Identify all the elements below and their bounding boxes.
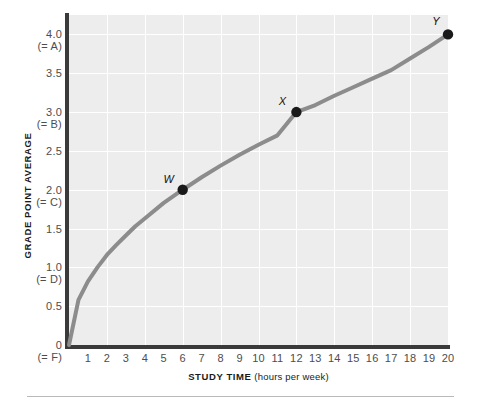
y-axis-title: GRADE POINT AVERAGE	[22, 106, 33, 286]
y-tick-value: 3.5	[4, 67, 62, 79]
point-label-x: X	[272, 95, 292, 107]
x-axis-title-units: (hours per week)	[254, 371, 328, 382]
y-tick-value: 1.0	[4, 261, 62, 273]
figure-bottom-rule	[27, 396, 454, 397]
y-tick-value: 2.5	[4, 145, 62, 157]
x-axis-title: STUDY TIME (hours per week)	[69, 371, 448, 382]
data-curve-layer	[0, 0, 480, 407]
y-tick-4-0: 4.0(= A)	[4, 28, 62, 52]
y-tick-0: 0(= F)	[4, 339, 62, 363]
data-point-w[interactable]	[178, 185, 188, 195]
y-tick-3-0: 3.0(= B)	[4, 106, 62, 130]
y-tick-2-5: 2.5	[4, 145, 62, 157]
y-tick-value: 3.0	[4, 106, 62, 118]
y-tick-value: 1.5	[4, 223, 62, 235]
y-tick-value: 4.0	[4, 28, 62, 40]
y-tick-grade: (= F)	[4, 351, 62, 363]
y-tick-0-5: 0.5	[4, 300, 62, 312]
y-tick-value: 0.5	[4, 300, 62, 312]
y-tick-2-0: 2.0(= C)	[4, 184, 62, 208]
y-tick-grade: (= D)	[4, 273, 62, 285]
x-axis-title-main: STUDY TIME	[188, 371, 251, 382]
y-tick-1-0: 1.0(= D)	[4, 261, 62, 285]
gpa-curve	[69, 34, 448, 345]
y-tick-grade: (= B)	[4, 118, 62, 130]
data-point-x[interactable]	[291, 107, 301, 117]
point-label-w: W	[159, 173, 179, 185]
y-tick-value: 2.0	[4, 184, 62, 196]
y-tick-3-5: 3.5	[4, 67, 62, 79]
data-point-y[interactable]	[443, 29, 453, 39]
y-tick-value: 0	[4, 339, 62, 351]
y-tick-grade: (= C)	[4, 196, 62, 208]
x-tick-20: 20	[435, 352, 461, 364]
point-label-y: Y	[426, 15, 446, 27]
chart-figure: 4.0(= A)3.53.0(= B)2.52.0(= C)1.51.0(= D…	[0, 0, 480, 407]
y-tick-grade: (= A)	[4, 40, 62, 52]
y-tick-1-5: 1.5	[4, 223, 62, 235]
